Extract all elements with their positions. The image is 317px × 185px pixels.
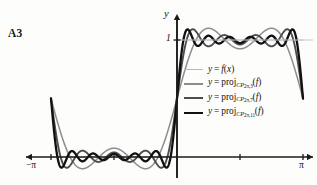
x-axis-right-arrow (307, 154, 313, 160)
legend-label-2: y = projCP2π,7(f) (208, 93, 261, 104)
legend-label-1: y = projCP2π,3(f) (208, 78, 261, 89)
legend-swatch-0 (184, 69, 203, 70)
legend-item-3: y = projCP2π,11(f) (184, 106, 312, 121)
y-axis-label: y (164, 8, 169, 19)
x-tick-label-pi: π (299, 160, 304, 170)
legend-swatch-2 (184, 97, 203, 99)
legend-swatch-1 (184, 83, 203, 85)
y-tick-label-1: 1 (166, 33, 171, 43)
legend-item-1: y = projCP2π,3(f) (184, 77, 312, 92)
legend-label-0: y = f(x) (208, 65, 234, 74)
legend-item-2: y = projCP2π,7(f) (184, 91, 312, 106)
legend-label-3: y = projCP2π,11(f) (208, 107, 264, 118)
figure-root: A3 y 1 −π π y = f(x)y = projCP2π,3(f)y =… (0, 0, 317, 185)
y-axis-arrow (174, 14, 180, 20)
legend-item-0: y = f(x) (184, 62, 312, 77)
legend-swatch-3 (184, 112, 203, 114)
x-tick-label-neg-pi: −π (26, 160, 36, 170)
legend: y = f(x)y = projCP2π,3(f)y = projCP2π,7(… (184, 62, 312, 120)
